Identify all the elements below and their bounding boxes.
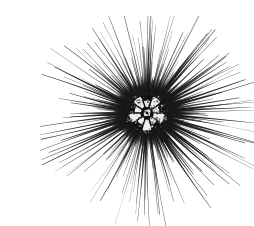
sea-urchin-image <box>40 16 254 226</box>
sea-urchin-figure: A long-spined sea urchin viewed from abo… <box>40 16 254 226</box>
